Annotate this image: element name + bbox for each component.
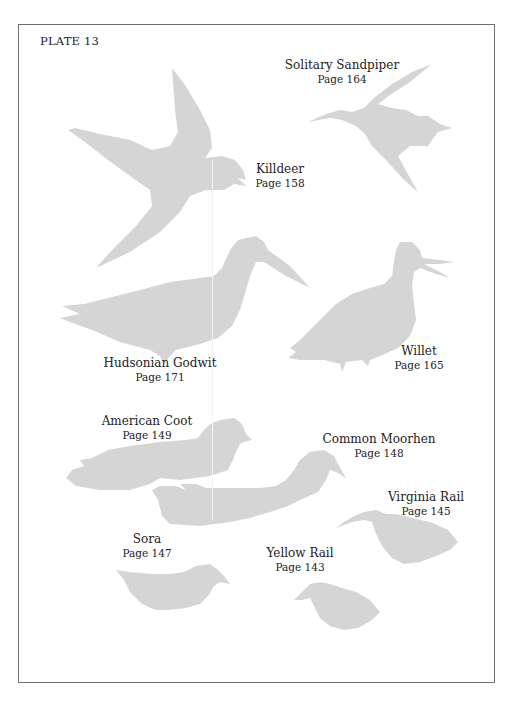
bird-page: Page 143 bbox=[258, 560, 342, 574]
label-yellow-rail: Yellow Rail Page 143 bbox=[258, 546, 342, 574]
bird-name: Common Moorhen bbox=[316, 432, 442, 446]
label-hudsonian-godwit: Hudsonian Godwit Page 171 bbox=[95, 356, 225, 384]
label-willet: Willet Page 165 bbox=[384, 344, 454, 372]
bird-name: Hudsonian Godwit bbox=[95, 356, 225, 370]
label-american-coot: American Coot Page 149 bbox=[92, 414, 202, 442]
bird-page: Page 158 bbox=[240, 176, 320, 190]
bird-name: Solitary Sandpiper bbox=[262, 58, 422, 72]
bird-name: Sora bbox=[112, 532, 182, 546]
bird-name: Yellow Rail bbox=[258, 546, 342, 560]
bird-name: Killdeer bbox=[240, 162, 320, 176]
bird-page: Page 165 bbox=[384, 358, 454, 372]
bird-page: Page 147 bbox=[112, 546, 182, 560]
hudsonian-godwit-silhouette bbox=[60, 236, 310, 364]
virginia-rail-silhouette bbox=[336, 510, 458, 564]
killdeer-silhouette bbox=[68, 68, 246, 268]
label-sora: Sora Page 147 bbox=[112, 532, 182, 560]
bird-name: American Coot bbox=[92, 414, 202, 428]
bird-page: Page 149 bbox=[92, 428, 202, 442]
bird-page: Page 171 bbox=[95, 370, 225, 384]
bird-name: Virginia Rail bbox=[376, 490, 476, 504]
label-common-moorhen: Common Moorhen Page 148 bbox=[316, 432, 442, 460]
bird-page: Page 148 bbox=[316, 446, 442, 460]
bird-page: Page 164 bbox=[262, 72, 422, 86]
bird-name: Willet bbox=[384, 344, 454, 358]
label-solitary-sandpiper: Solitary Sandpiper Page 164 bbox=[262, 58, 422, 86]
page-fold-line bbox=[212, 160, 213, 520]
sora-silhouette bbox=[116, 564, 230, 610]
label-killdeer: Killdeer Page 158 bbox=[240, 162, 320, 190]
yellow-rail-silhouette bbox=[294, 582, 380, 630]
label-virginia-rail: Virginia Rail Page 145 bbox=[376, 490, 476, 518]
bird-page: Page 145 bbox=[376, 504, 476, 518]
